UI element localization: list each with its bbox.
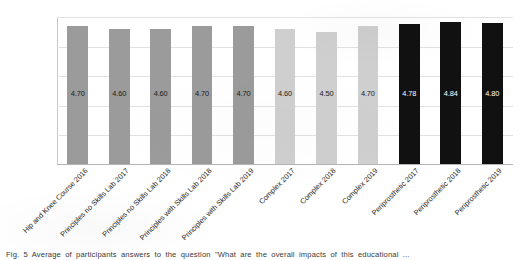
bar-value-label: 4.80	[485, 90, 499, 97]
bar-value-label: 4.60	[112, 90, 126, 97]
bar-series: 4.704.604.604.704.704.604.504.704.784.84…	[57, 17, 513, 165]
figure-bar-chart: 012345 4.704.604.604.704.704.604.504.704…	[0, 0, 524, 260]
bar: 4.70	[233, 26, 254, 165]
bar: 4.70	[192, 26, 213, 165]
bar: 4.70	[67, 26, 88, 165]
bar: 4.60	[275, 29, 296, 165]
bar-value-label: 4.60	[278, 90, 292, 97]
x-axis-category-labels: Hip and Knee Course 2016Principles no Sk…	[57, 167, 513, 237]
bar: 4.60	[150, 29, 171, 165]
bar: 4.78	[399, 24, 420, 165]
bar-value-label: 4.70	[361, 90, 375, 97]
plot-area: 012345 4.704.604.604.704.704.604.504.704…	[57, 17, 513, 165]
figure-caption: Fig. 5 Average of participants answers t…	[6, 250, 520, 260]
bar-value-label: 4.70	[71, 90, 85, 97]
bar: 4.60	[109, 29, 130, 165]
x-axis-line	[57, 164, 513, 165]
bar-value-label: 4.84	[444, 90, 458, 97]
bar: 4.84	[440, 22, 461, 165]
bar-value-label: 4.50	[319, 90, 333, 97]
bar: 4.70	[358, 26, 379, 165]
bar: 4.50	[316, 32, 337, 165]
bar: 4.80	[482, 23, 503, 165]
bar-value-label: 4.70	[195, 90, 209, 97]
bar-value-label: 4.70	[237, 90, 251, 97]
bar-value-label: 4.78	[402, 90, 416, 97]
bar-value-label: 4.60	[154, 90, 168, 97]
figure-caption-text: Fig. 5 Average of participants answers t…	[6, 250, 520, 260]
